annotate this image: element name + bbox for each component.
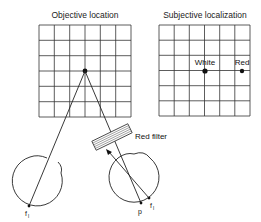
objective-location-title: Objective location: [51, 10, 118, 20]
red-label: Red: [235, 58, 250, 67]
right-fovea-label: f: [150, 202, 152, 209]
white-label: White: [195, 58, 216, 67]
right-p-point: [140, 202, 143, 205]
red-filter-label: Red filter: [135, 132, 167, 141]
red-filter: [92, 124, 132, 151]
right-fovea-subscript: l: [153, 205, 154, 211]
projection-arrow-line: [109, 152, 149, 198]
white-point-marker: [202, 68, 207, 73]
left-eye: [12, 156, 62, 206]
left-fovea-subscript: l: [28, 213, 29, 219]
right-p-label: p: [138, 208, 142, 216]
red-point-marker: [240, 69, 244, 73]
left-fovea-point: [28, 205, 31, 208]
left-eye-sight-line: [29, 71, 85, 206]
subjective-localization-title: Subjective localization: [163, 10, 247, 20]
binocular-localization-diagram: Objective location Subjective localizati…: [0, 0, 261, 222]
left-fovea-label: f: [25, 210, 27, 217]
